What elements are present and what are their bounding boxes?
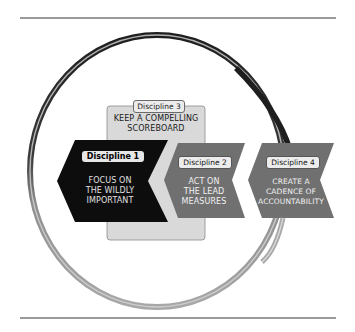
discipline-4-tag: Discipline 4 [266,156,320,169]
discipline-3-text-line-2: SCOREBOARD [107,124,205,134]
discipline-3-text-line-1: KEEP A COMPELLING [107,114,205,124]
discipline-1-text-line-1: FOCUS ON [75,176,145,186]
discipline-1-tag: Discipline 1 [82,151,144,162]
discipline-2-text-line-1: ACT ON [172,177,236,187]
discipline-4-text-line-3: ACCOUNTABILITY [254,197,328,207]
discipline-1-text-line-3: IMPORTANT [75,196,145,206]
discipline-2-tag: Discipline 2 [178,156,232,169]
discipline-3-tag: Discipline 3 [133,100,185,113]
discipline-1-text-line-2: THE WILDLY [75,186,145,196]
discipline-2-text-line-3: MEASURES [172,197,236,207]
discipline-2-text-line-2: THE LEAD [172,187,236,197]
discipline-4-text-line-1: CREATE A [254,177,328,187]
discipline-4-text-line-2: CADENCE OF [254,187,328,197]
